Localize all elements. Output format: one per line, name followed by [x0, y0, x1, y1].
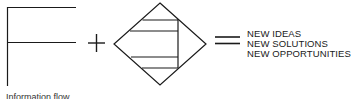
result-item: NEW OPPORTUNITIES [247, 49, 351, 59]
plus-icon [88, 34, 105, 52]
results-list: NEW IDEAS NEW SOLUTIONS NEW OPPORTUNITIE… [247, 29, 351, 59]
bracket-figure [8, 7, 77, 86]
diagram-canvas: NEW IDEAS NEW SOLUTIONS NEW OPPORTUNITIE… [0, 0, 360, 99]
diagram-caption: Information flow [6, 92, 70, 99]
diamond-outline [114, 3, 206, 85]
diamond-figure [114, 3, 206, 85]
equals-icon [215, 37, 240, 44]
